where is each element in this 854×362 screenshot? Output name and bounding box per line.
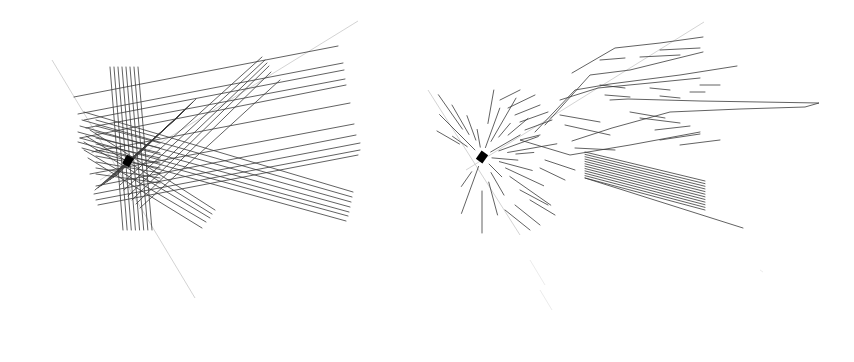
ghost-mark (540, 290, 552, 310)
segment-dash (565, 125, 610, 135)
node-ray (489, 164, 502, 177)
segment-dash (660, 48, 700, 50)
segment-dash (605, 95, 630, 97)
segment-dash (660, 134, 700, 140)
segment-dash (520, 112, 548, 122)
ghost-mark (760, 270, 763, 272)
top-flow-line (572, 37, 703, 73)
short-ray (84, 142, 210, 218)
node-ray (467, 116, 476, 140)
node-ray (477, 129, 480, 147)
segment-dash (650, 88, 670, 90)
tail-line (585, 178, 743, 228)
parallel-segment (585, 159, 705, 189)
node-ray (492, 158, 518, 160)
node-ray (499, 162, 532, 171)
central-node (476, 151, 488, 164)
node-ray (440, 115, 475, 150)
segment-dash (515, 205, 540, 225)
node-ray (489, 182, 498, 215)
parallel-segment (585, 176, 705, 208)
segment-dash (640, 118, 680, 123)
faint-guide-line (466, 22, 704, 170)
segment-dash (640, 55, 680, 57)
right-segment-diagram (428, 22, 819, 310)
faint-guide-line (428, 90, 520, 235)
ghost-mark (530, 260, 545, 285)
parallel-segment (585, 178, 705, 210)
upper-flow-line (545, 52, 703, 125)
short-ray (84, 150, 206, 222)
segment-dash (545, 160, 575, 170)
node-ray (491, 98, 516, 141)
segment-dash (508, 95, 535, 108)
segment-dash (515, 105, 540, 115)
fan-ray (90, 124, 354, 174)
node-ray (506, 168, 544, 186)
faint-guide-line (100, 21, 358, 180)
node-ray (516, 152, 534, 154)
left-ray-diagram (52, 21, 360, 298)
segment-dash (655, 126, 690, 130)
diagonal-ray (136, 72, 271, 204)
segment-dash (600, 58, 625, 60)
node-ray (508, 118, 528, 135)
node-ray (437, 131, 460, 144)
node-ray (510, 177, 551, 206)
node-ray (488, 90, 494, 123)
parallel-segment (585, 173, 705, 204)
figure-canvas (0, 0, 854, 362)
vertical-ray (118, 67, 131, 230)
node-ray (485, 108, 499, 147)
node-ray (491, 135, 520, 152)
parallel-segment (585, 171, 705, 202)
node-ray (461, 172, 471, 187)
segment-dash (680, 140, 720, 145)
segment-dash (660, 96, 680, 98)
segment-dash (560, 115, 600, 122)
segment-dash (540, 168, 565, 180)
line-diagram (0, 0, 854, 362)
segment-dash (505, 210, 530, 230)
segment-dash (500, 90, 520, 100)
lower-flow-line (520, 132, 700, 155)
vertical-ray (122, 67, 135, 230)
